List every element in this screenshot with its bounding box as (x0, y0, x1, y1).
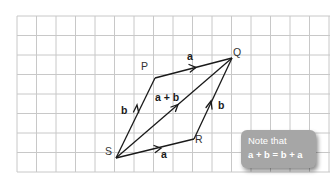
vector-rq (194, 58, 232, 139)
point-label-q: Q (233, 46, 241, 58)
vector-sp (116, 78, 155, 158)
vector-label-sp: b (121, 104, 127, 116)
vector-label-sr: a (161, 148, 167, 160)
vector-label-pq: a (187, 50, 193, 62)
note-box: Note that a + b = b + a (241, 130, 316, 168)
vector-label-sq: a + b (155, 91, 179, 103)
point-label-p: P (141, 60, 148, 72)
point-label-r: R (195, 133, 203, 145)
parallelogram (116, 58, 232, 158)
note-title: Note that (248, 134, 316, 148)
vector-label-rq: b (218, 99, 224, 111)
point-label-s: S (105, 145, 112, 157)
note-equation: a + b = b + a (248, 148, 316, 162)
